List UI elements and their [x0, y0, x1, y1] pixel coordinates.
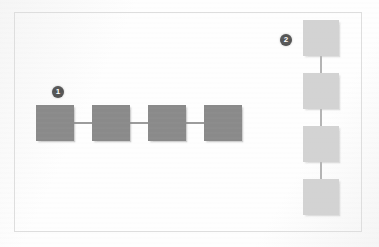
connector-v-1: [320, 56, 322, 73]
connector-h-2: [130, 122, 148, 124]
callout-badge-1: 1: [52, 86, 64, 98]
node-h-2[interactable]: [92, 105, 130, 141]
node-h-3[interactable]: [148, 105, 186, 141]
connector-v-3: [320, 162, 322, 179]
connector-v-2: [320, 109, 322, 126]
node-v-2[interactable]: [303, 73, 339, 109]
node-h-4[interactable]: [204, 105, 242, 141]
connector-h-3: [186, 122, 204, 124]
node-v-1[interactable]: [303, 20, 339, 56]
diagram-canvas: 1 2: [0, 0, 379, 247]
node-v-4[interactable]: [303, 179, 339, 215]
node-v-3[interactable]: [303, 126, 339, 162]
callout-badge-2: 2: [280, 34, 292, 46]
node-h-1[interactable]: [36, 105, 74, 141]
connector-h-1: [74, 122, 92, 124]
